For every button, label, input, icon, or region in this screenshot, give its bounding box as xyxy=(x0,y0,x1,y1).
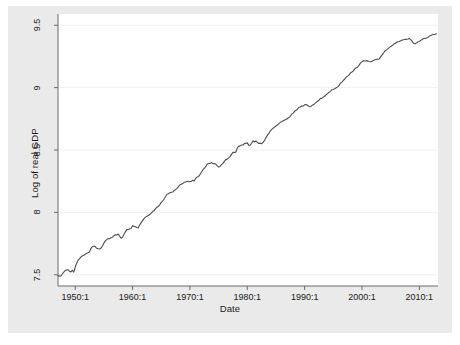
x-tick-label: 2010:1 xyxy=(389,292,449,302)
x-tick-label: 1960:1 xyxy=(103,292,163,302)
x-tick-label: 2000:1 xyxy=(332,292,392,302)
y-axis-title: Log of real GDP xyxy=(29,128,40,198)
x-tick-label: 1980:1 xyxy=(217,292,277,302)
chart-figure: 7.588.599.5 1950:11960:11970:11980:11990… xyxy=(0,0,460,345)
y-tick-label: 8 xyxy=(30,199,44,225)
y-tick-label: 7.5 xyxy=(30,262,44,288)
x-tick-label: 1990:1 xyxy=(275,292,335,302)
tick-marks-group xyxy=(54,25,419,290)
gdp-line-series xyxy=(58,34,437,276)
x-tick-label: 1950:1 xyxy=(45,292,105,302)
y-tick-label: 9 xyxy=(30,75,44,101)
x-axis-title: Date xyxy=(0,303,460,314)
y-tick-label: 9.5 xyxy=(30,12,44,38)
gridlines-group xyxy=(58,25,438,275)
x-tick-label: 1970:1 xyxy=(160,292,220,302)
